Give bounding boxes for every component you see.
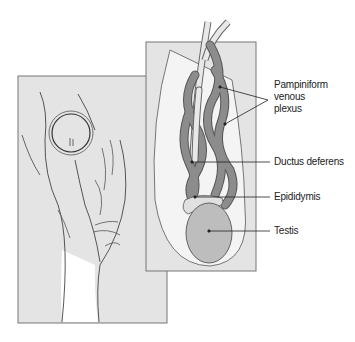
label-testis: Testis xyxy=(274,225,298,237)
label-epididymis: Epididymis xyxy=(274,191,320,203)
label-ductus-deferens: Ductus deferens xyxy=(274,156,344,168)
varicocele-diagram xyxy=(0,0,355,342)
label-line: Pampiniform xyxy=(274,79,328,91)
external-view-panel xyxy=(18,76,167,323)
label-line: venous xyxy=(274,91,328,103)
internal-view-panel xyxy=(146,22,256,271)
label-line: plexus xyxy=(274,103,328,115)
label-pampiniform-venous-plexus: Pampiniform venous plexus xyxy=(274,79,328,115)
